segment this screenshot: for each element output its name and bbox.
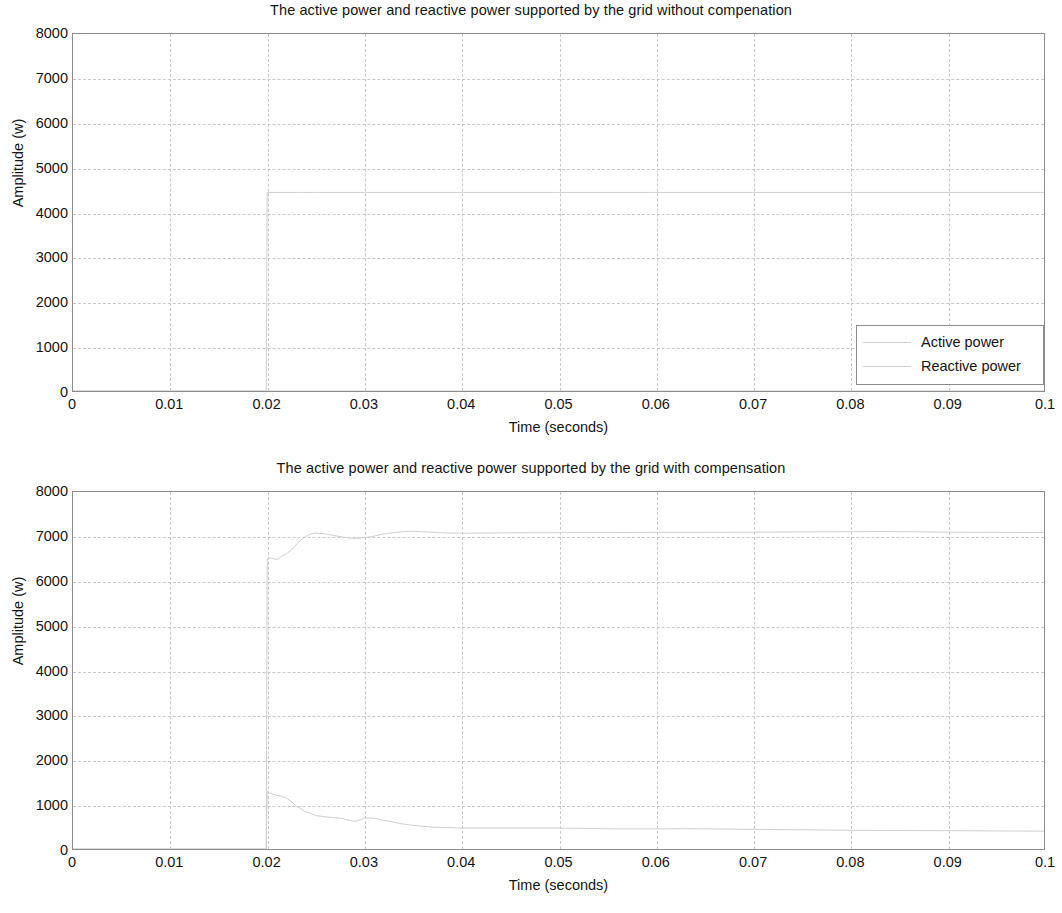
y-tick-label: 0: [2, 842, 68, 858]
legend-item-reactive-power: Reactive power: [863, 354, 1035, 378]
plot-area: [72, 491, 1045, 850]
y-tick-label: 5000: [2, 160, 68, 176]
x-tick-label: 0.01: [155, 854, 183, 870]
x-tick-label: 0.1: [1035, 396, 1055, 412]
y-tick-label: 6000: [2, 115, 68, 131]
y-tick-label: 8000: [2, 483, 68, 499]
subplot-without-compensation: The active power and reactive power supp…: [0, 0, 1062, 458]
figure-canvas: The active power and reactive power supp…: [0, 0, 1062, 913]
legend-line-icon: [863, 342, 911, 343]
x-tick-label: 0: [68, 854, 76, 870]
y-tick-label: 1000: [2, 797, 68, 813]
legend: Active power Reactive power: [856, 325, 1044, 385]
y-tick-labels: 010002000300040005000600070008000: [0, 491, 68, 850]
x-tick-label: 0.04: [447, 854, 475, 870]
y-tick-labels: 010002000300040005000600070008000: [0, 33, 68, 392]
x-tick-label: 0: [68, 396, 76, 412]
series-active-power: [73, 531, 1044, 849]
y-tick-label: 4000: [2, 663, 68, 679]
x-tick-label: 0.08: [836, 396, 864, 412]
subplot-with-compensation: The active power and reactive power supp…: [0, 458, 1062, 913]
x-tick-label: 0.08: [836, 854, 864, 870]
chart-title: The active power and reactive power supp…: [0, 2, 1062, 18]
x-axis-label: Time (seconds): [72, 877, 1045, 893]
x-tick-label: 0.05: [544, 854, 572, 870]
y-tick-label: 8000: [2, 25, 68, 41]
x-tick-label: 0.07: [739, 854, 767, 870]
trace-svg: [73, 492, 1044, 849]
x-tick-labels: 00.010.020.030.040.050.060.070.080.090.1: [72, 854, 1045, 876]
chart-title: The active power and reactive power supp…: [0, 460, 1062, 476]
x-tick-label: 0.09: [934, 396, 962, 412]
y-tick-label: 1000: [2, 339, 68, 355]
legend-line-icon: [863, 366, 911, 367]
x-tick-label: 0.02: [252, 396, 280, 412]
x-tick-labels: 00.010.020.030.040.050.060.070.080.090.1: [72, 396, 1045, 418]
x-tick-label: 0.02: [252, 854, 280, 870]
series-reactive-power: [73, 792, 1044, 849]
x-axis-label: Time (seconds): [72, 419, 1045, 435]
y-tick-label: 6000: [2, 573, 68, 589]
legend-label: Reactive power: [921, 358, 1021, 374]
y-tick-label: 0: [2, 384, 68, 400]
legend-item-active-power: Active power: [863, 330, 1035, 354]
legend-label: Active power: [921, 334, 1004, 350]
y-tick-label: 7000: [2, 528, 68, 544]
y-tick-label: 7000: [2, 70, 68, 86]
data-layer: [73, 492, 1044, 849]
x-tick-label: 0.04: [447, 396, 475, 412]
x-tick-label: 0.01: [155, 396, 183, 412]
y-tick-label: 5000: [2, 618, 68, 634]
y-tick-label: 4000: [2, 205, 68, 221]
x-tick-label: 0.03: [350, 396, 378, 412]
x-tick-label: 0.03: [350, 854, 378, 870]
x-tick-label: 0.05: [544, 396, 572, 412]
y-tick-label: 3000: [2, 707, 68, 723]
x-tick-label: 0.06: [642, 854, 670, 870]
y-tick-label: 2000: [2, 294, 68, 310]
x-tick-label: 0.07: [739, 396, 767, 412]
y-tick-label: 3000: [2, 249, 68, 265]
y-tick-label: 2000: [2, 752, 68, 768]
x-tick-label: 0.1: [1035, 854, 1055, 870]
x-tick-label: 0.09: [934, 854, 962, 870]
x-tick-label: 0.06: [642, 396, 670, 412]
